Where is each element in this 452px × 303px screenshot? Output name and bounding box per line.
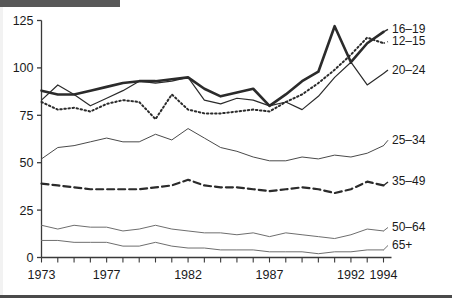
series-line-35-49 [42, 180, 384, 193]
legend: 16–1912–1520–2425–3435–4950–6465+ [384, 22, 426, 252]
legend-leader-16-19 [384, 29, 389, 32]
figure-container: 0255075100125 197319771982198719921994 1… [0, 0, 452, 303]
legend-leader-65+ [384, 245, 389, 249]
legend-label-20-24: 20–24 [392, 63, 426, 77]
legend-label-12-15: 12–15 [392, 34, 426, 48]
series-line-12-15 [42, 38, 384, 120]
y-tick-label: 75 [20, 109, 34, 123]
legend-leader-35-49 [384, 182, 389, 186]
y-tick-label: 125 [13, 14, 34, 28]
legend-leader-50-64 [384, 227, 389, 231]
legend-label-65+: 65+ [392, 238, 412, 252]
y-tick-label: 50 [20, 156, 34, 170]
x-tick-label: 1982 [174, 268, 202, 282]
series-line-50-64 [42, 225, 384, 238]
legend-leader-25-34 [384, 140, 389, 145]
series-line-16-19 [42, 26, 384, 106]
y-axis: 0255075100125 [13, 14, 42, 265]
legend-label-25-34: 25–34 [392, 133, 426, 147]
data-series-group [42, 26, 384, 254]
series-line-20-24 [42, 62, 384, 109]
series-line-25-34 [42, 129, 384, 161]
x-tick-label: 1977 [93, 268, 121, 282]
line-chart: 0255075100125 197319771982198719921994 1… [0, 0, 452, 303]
legend-label-35-49: 35–49 [392, 174, 426, 188]
y-tick-label: 100 [13, 61, 34, 75]
y-tick-label: 0 [27, 251, 34, 265]
x-tick-label: 1987 [256, 268, 284, 282]
x-tick-label: 1994 [370, 268, 398, 282]
x-tick-label: 1973 [28, 268, 56, 282]
legend-leader-20-24 [384, 70, 389, 74]
x-axis: 197319771982198719921994 [28, 258, 398, 282]
y-tick-label: 25 [20, 204, 34, 218]
legend-label-50-64: 50–64 [392, 220, 426, 234]
series-line-65+ [42, 240, 384, 253]
legend-leader-12-15 [384, 42, 389, 44]
x-tick-label: 1992 [337, 268, 365, 282]
